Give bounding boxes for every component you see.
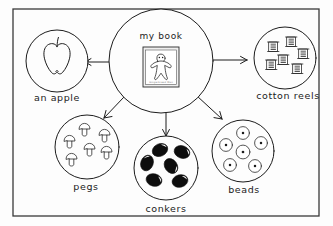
apple-circle bbox=[26, 30, 88, 92]
conkers-label: conkers bbox=[145, 203, 186, 214]
center-node-label: my book bbox=[139, 31, 182, 41]
mind-map-diagram: my book Gingerbread Man bbox=[0, 0, 333, 226]
book-cover-caption: Gingerbread Man bbox=[149, 81, 173, 84]
branch-node-apple[interactable]: an apple bbox=[26, 30, 88, 103]
cotton-reels-label: cotton reels bbox=[256, 90, 320, 101]
book-cover-gingerbread-man-icon: Gingerbread Man bbox=[143, 47, 179, 87]
pegs-label: pegs bbox=[73, 181, 98, 192]
center-node-my-book[interactable]: my book Gingerbread Man bbox=[109, 9, 213, 113]
beads-label: beads bbox=[228, 184, 260, 195]
apple-label: an apple bbox=[34, 92, 80, 103]
